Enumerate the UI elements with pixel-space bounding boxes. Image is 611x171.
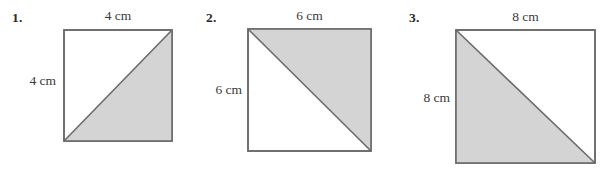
figure-3: 3. 8 cm 8 cm: [0, 0, 611, 171]
worksheet: 1. 4 cm 4 cm 2. 6 cm 6 cm 3. 8 cm 8 cm: [0, 0, 611, 171]
figure-3-top-dimension-label: 8 cm: [456, 9, 595, 25]
figure-3-square-with-shaded-triangle: [455, 29, 596, 164]
figure-3-left-dimension-label: 8 cm: [396, 90, 450, 106]
figure-3-number: 3.: [409, 10, 420, 26]
